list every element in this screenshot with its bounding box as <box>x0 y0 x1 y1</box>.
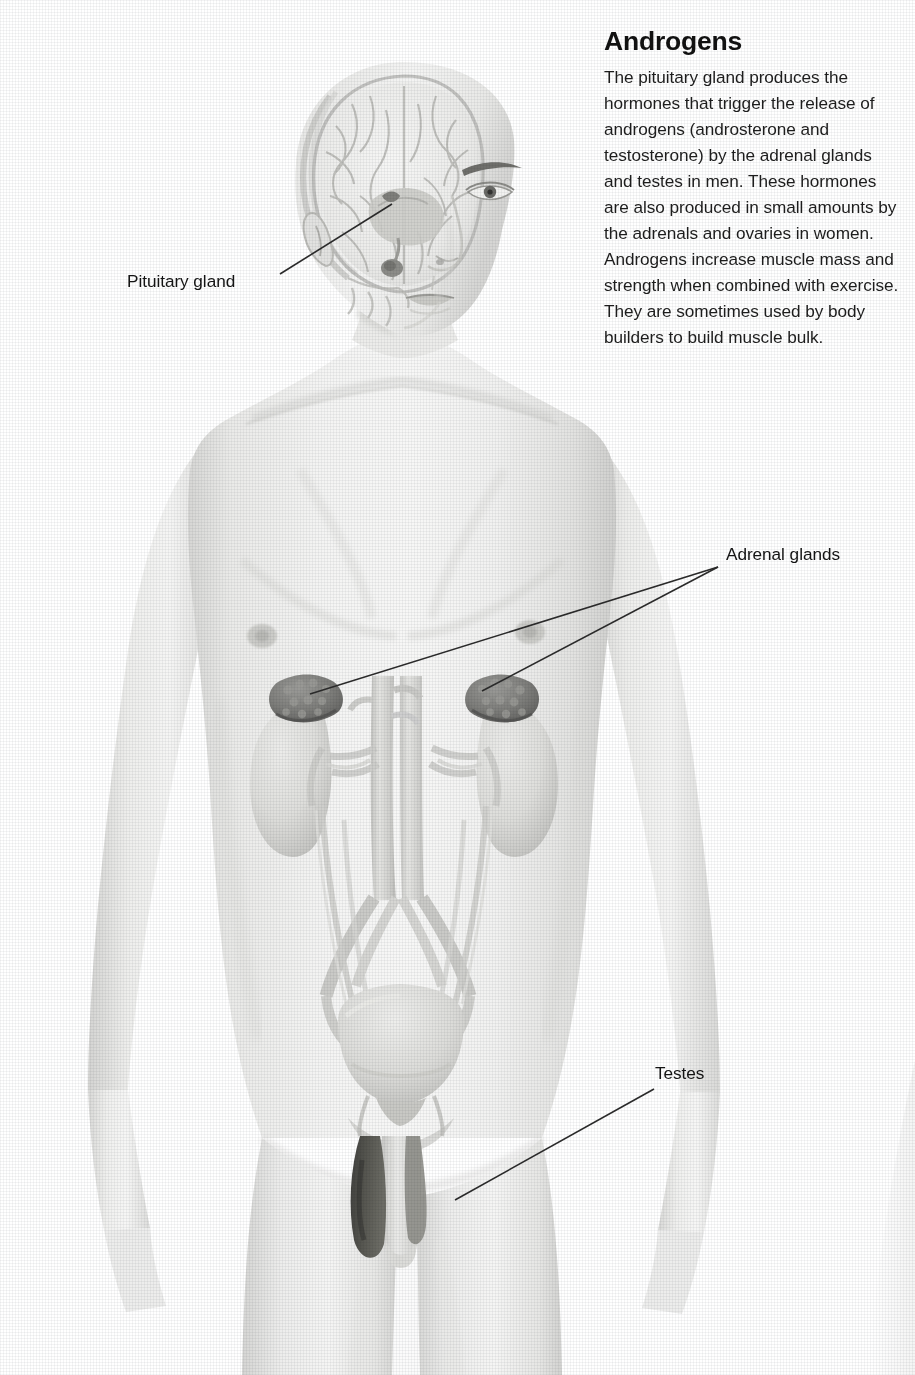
illustration-page: Androgens The pituitary gland produces t… <box>0 0 915 1375</box>
head-with-brain-cutaway <box>295 62 522 336</box>
page-title: Androgens <box>604 28 904 55</box>
callout-label-pituitary-gland: Pituitary gland <box>127 273 235 290</box>
adrenal-gland-left <box>269 675 343 723</box>
callout-label-testes: Testes <box>655 1065 704 1082</box>
article-text-column: Androgens The pituitary gland produces t… <box>604 28 904 351</box>
page-edge-artifact <box>872 1060 915 1375</box>
article-body: The pituitary gland produces the hormone… <box>604 64 904 351</box>
callout-label-adrenal-glands: Adrenal glands <box>726 546 840 563</box>
adrenal-gland-right <box>465 675 539 723</box>
